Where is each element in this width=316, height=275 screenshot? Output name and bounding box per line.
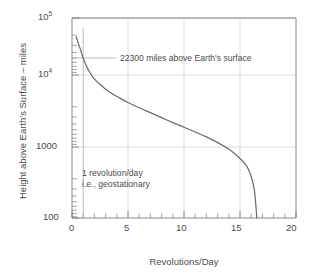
x-axis-title-wrapper: Revolutions/Day [72,251,296,269]
x-tick-label-20: 20 [286,223,297,233]
chart-plot-area [0,0,316,275]
altitude-annotation-text: 22300 miles above Earth's surface [120,53,252,64]
geostationary-annotation-line2: i.e., geostationary [82,179,150,190]
x-tick-label-15: 15 [231,223,242,233]
chart-figure: 105 104 1000 100 0 5 10 15 20 Height abo… [0,0,316,275]
y-axis-major-ticks [72,18,79,218]
y-axis-title: Height above Earth's Surface – miles [17,43,28,199]
y-axis-minor-ticks [72,35,77,216]
x-tick-label-10: 10 [176,223,187,233]
orbit-altitude-curve [76,37,257,218]
y-tick-label-1000: 1000 [36,141,57,151]
geostationary-annotation-line1: 1 revolution/day [82,168,143,178]
x-tick-label-0: 0 [69,223,74,233]
y-axis-title-wrapper: Height above Earth's Surface – miles [12,26,30,216]
x-axis-title: Revolutions/Day [149,256,218,267]
y-tick-label-100000: 105 [38,12,52,22]
y-tick-label-10000: 104 [38,69,52,79]
geostationary-annotation-text: 1 revolution/day i.e., geostationary [82,168,150,190]
x-tick-label-5: 5 [124,223,129,233]
y-tick-label-100: 100 [43,212,59,222]
